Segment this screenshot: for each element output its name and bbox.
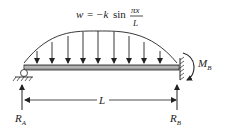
formula-eq: = (87, 8, 93, 20)
moment-arrow-icon (183, 53, 194, 80)
load-curve (24, 31, 177, 63)
reaction-b-label: RB (169, 112, 182, 127)
reaction-a-label: RA (14, 112, 27, 127)
wall-hatch-icon (180, 57, 184, 80)
moment-label: MB (197, 57, 212, 72)
right-fixed-support (180, 57, 184, 80)
beam-diagram: w = −k sin πx L (0, 0, 226, 133)
ground-hatch-icon (13, 77, 32, 81)
span-label: L (98, 94, 105, 106)
pin-icon (21, 70, 28, 77)
formula-denominator: L (132, 18, 138, 28)
left-pin-support (13, 70, 33, 82)
formula-coef: −k (96, 8, 109, 20)
distributed-load-arrows (37, 31, 160, 63)
beam (24, 65, 179, 70)
load-formula: w = −k sin πx L (76, 5, 143, 28)
formula-w: w (76, 8, 84, 20)
formula-numerator: πx (131, 5, 140, 15)
formula-sin: sin (113, 8, 126, 20)
